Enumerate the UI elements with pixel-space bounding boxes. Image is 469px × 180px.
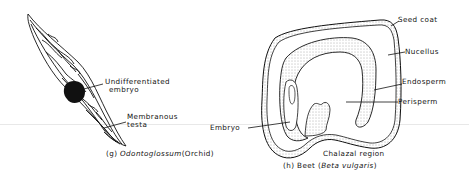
caption-paren: ) bbox=[374, 161, 377, 170]
label-membranous-testa: Membranous testa bbox=[127, 113, 178, 129]
label-endosperm: Endosperm bbox=[402, 78, 446, 86]
label-perisperm: Perisperm bbox=[398, 98, 438, 106]
caption-prefix: (g) bbox=[106, 149, 117, 158]
seed-illustrations bbox=[0, 0, 469, 180]
label-line: testa bbox=[127, 121, 178, 129]
label-undifferentiated-embryo: Undifferentiated embryo bbox=[105, 78, 170, 94]
label-embryo: Embryo bbox=[210, 124, 240, 132]
label-seed-coat: Seed coat bbox=[398, 16, 437, 24]
caption-common-name: Beet bbox=[297, 161, 315, 170]
caption-prefix: (h) bbox=[283, 161, 294, 170]
caption-beet: (h) Beet (Beta vulgaris) bbox=[283, 162, 377, 170]
caption-common-name: (Orchid) bbox=[182, 149, 214, 158]
caption-species: Beta vulgaris bbox=[321, 161, 374, 170]
undifferentiated-embryo-shape bbox=[64, 81, 85, 103]
label-nucellus: Nucellus bbox=[405, 48, 439, 56]
botanical-seed-figure: Undifferentiated embryo Membranous testa… bbox=[0, 0, 469, 180]
caption-orchid: (g) Odontoglossum(Orchid) bbox=[106, 150, 214, 158]
label-line: embryo bbox=[105, 86, 170, 94]
caption-genus: Odontoglossum bbox=[120, 149, 182, 158]
label-chalazal-region: Chalazal region bbox=[323, 150, 385, 158]
